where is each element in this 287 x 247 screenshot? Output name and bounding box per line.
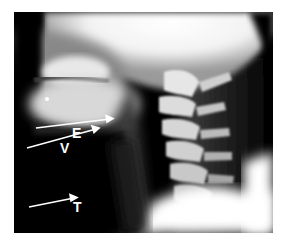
xray-graphic — [14, 12, 273, 233]
annotation-label-e: E — [72, 126, 81, 140]
xray-image: E V T — [14, 12, 273, 233]
annotation-label-v: V — [60, 141, 69, 155]
annotation-label-t: T — [73, 200, 82, 214]
